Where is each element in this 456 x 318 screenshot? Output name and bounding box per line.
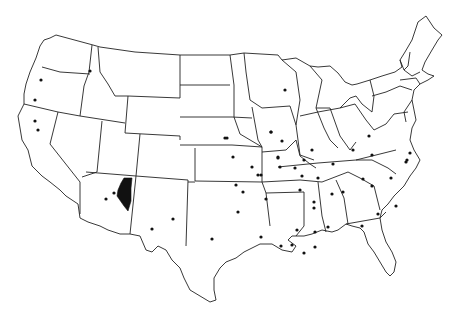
location-dot xyxy=(36,128,39,131)
location-dot xyxy=(269,130,272,133)
location-dot xyxy=(302,158,305,161)
location-dot xyxy=(405,158,408,161)
location-dot xyxy=(370,153,373,156)
location-dot xyxy=(360,224,363,227)
location-dot xyxy=(290,243,293,246)
location-dot xyxy=(394,204,397,207)
location-dot xyxy=(241,190,244,193)
location-dot xyxy=(231,155,234,158)
location-dot xyxy=(298,188,301,191)
location-dot xyxy=(310,148,313,151)
location-dot xyxy=(104,197,107,200)
location-dot xyxy=(259,173,262,176)
location-dot xyxy=(361,177,364,180)
location-dot xyxy=(389,176,392,179)
location-dot xyxy=(313,245,316,248)
location-dot xyxy=(236,210,239,213)
location-dot xyxy=(302,251,305,254)
location-dot xyxy=(210,237,213,240)
location-dot xyxy=(341,190,344,193)
location-dot xyxy=(367,134,370,137)
location-dot xyxy=(33,119,36,122)
location-dot xyxy=(39,78,42,81)
location-dot xyxy=(293,166,296,169)
location-dot xyxy=(279,244,282,247)
location-dot xyxy=(295,228,298,231)
location-dot xyxy=(280,139,283,142)
location-dot xyxy=(88,69,91,72)
location-dot xyxy=(256,173,259,176)
location-dot xyxy=(33,98,36,101)
location-dot xyxy=(351,148,354,151)
location-dot xyxy=(300,174,303,177)
location-dot xyxy=(283,88,286,91)
location-dot xyxy=(312,206,315,209)
location-dot xyxy=(234,183,237,186)
location-dot xyxy=(370,184,373,187)
location-dot xyxy=(171,217,174,220)
location-dot xyxy=(316,176,319,179)
location-dot xyxy=(331,162,334,165)
location-dot xyxy=(225,136,228,139)
location-dot xyxy=(264,197,267,200)
location-dot xyxy=(250,165,253,168)
location-dot xyxy=(313,230,316,233)
location-dot xyxy=(376,212,379,215)
location-dot xyxy=(312,200,315,203)
location-dot xyxy=(278,165,281,168)
location-dot xyxy=(276,156,279,159)
us-map xyxy=(0,0,456,318)
location-dot xyxy=(259,235,262,238)
location-dot xyxy=(330,192,333,195)
location-dot xyxy=(408,151,411,154)
location-dot xyxy=(326,225,329,228)
location-dot xyxy=(112,191,115,194)
location-dot xyxy=(150,227,153,230)
